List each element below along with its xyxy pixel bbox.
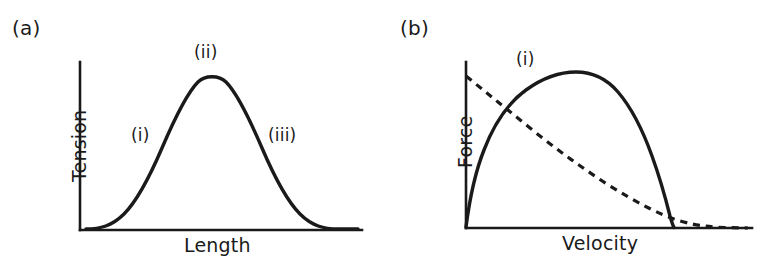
panel-b-y-axis-title: Force xyxy=(456,116,475,168)
panel-b-plot xyxy=(380,0,757,268)
panel-b-x-axis-title: Velocity xyxy=(562,234,638,253)
panel-a-region-label-ii: (ii) xyxy=(194,44,218,61)
figure-root: (a) Tension Length (i) (ii) (iii) (b) Fo… xyxy=(0,0,757,268)
panel-b-force-velocity-curve xyxy=(466,76,748,228)
panel-b-curve-label-i: (i) xyxy=(516,51,535,68)
panel-a-region-label-i: (i) xyxy=(131,127,150,144)
panel-a-region-label-iii: (iii) xyxy=(268,127,296,144)
panel-b: (b) Force Velocity (i) xyxy=(380,0,757,268)
panel-a-length-tension-curve xyxy=(86,77,358,229)
panel-b-label: (b) xyxy=(400,18,429,38)
panel-b-power-curve xyxy=(466,72,674,228)
panel-a-x-axis-title: Length xyxy=(184,236,251,255)
panel-a: (a) Tension Length (i) (ii) (iii) xyxy=(0,0,380,268)
panel-a-y-axis-title: Tension xyxy=(70,110,89,182)
panel-a-plot xyxy=(0,0,380,268)
panel-a-label: (a) xyxy=(12,18,40,38)
